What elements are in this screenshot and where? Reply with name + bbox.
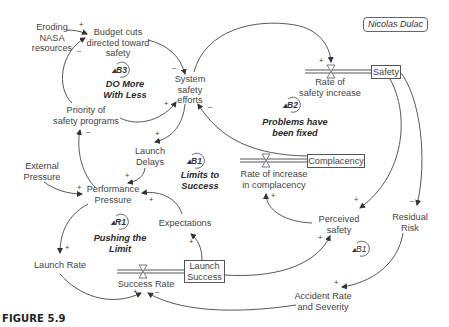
- var-expectations: Expectations: [159, 218, 212, 229]
- polarity-residual-accident: +: [334, 279, 338, 287]
- polarity-launchsuccess-expect: +: [189, 238, 193, 246]
- polarity-budget-sse: –: [172, 64, 176, 72]
- stock-safety: Safety: [371, 65, 401, 79]
- loop-name-b1: Limits to Success: [181, 170, 219, 191]
- var-launch-rate: Launch Rate: [34, 260, 86, 271]
- polarity-launchsuccess-perceived: +: [318, 234, 322, 242]
- link-perf-to-priority: [79, 130, 96, 188]
- valve-icon-complacency: [262, 154, 270, 167]
- polarity-safety-perceived: +: [354, 196, 358, 204]
- polarity-complacency-sse: –: [208, 103, 212, 111]
- link-residual-to-accident: [342, 233, 403, 287]
- link-launchsuccess-to-perceived: [225, 236, 330, 276]
- var-success-rate: Success Rate: [118, 279, 175, 290]
- var-rate-complacency: Rate of increase in complacency: [241, 169, 308, 190]
- var-system-safety-efforts: System safety efforts: [175, 74, 206, 106]
- var-perceived-safety: Perceived safety: [319, 214, 360, 235]
- link-accident-to-success: [148, 293, 296, 310]
- polarity-expect-perf: +: [149, 196, 153, 204]
- polarity-launchrate-success: +: [133, 288, 137, 296]
- polarity-accident-success: –: [155, 288, 159, 296]
- var-accident-rate: Accident Rate and Severity: [294, 291, 351, 312]
- polarity-external-perf: +: [77, 184, 81, 192]
- polarity-eroding-budget: +: [79, 21, 83, 29]
- flow-pipe-safety: [305, 70, 371, 73]
- link-budget-to-sse: [148, 40, 185, 74]
- var-launch-delays: Launch Delays: [135, 146, 165, 167]
- polarity-priority-sse: +: [164, 100, 168, 108]
- link-safety-to-residual: [400, 72, 422, 205]
- loop-id-b1: ▴B1: [187, 156, 202, 166]
- figure-caption: FIGURE 5.9: [2, 313, 66, 324]
- flow-pipe-complacency: [240, 159, 307, 162]
- var-performance-pressure: Performance Pressure: [87, 184, 140, 205]
- polarity-delays-perf: +: [125, 172, 129, 180]
- stock-launch-success: Launch Success: [184, 260, 225, 283]
- var-priority-safety: Priority of safety programs: [53, 105, 119, 126]
- loop-name-b2: Problems have been fixed: [262, 117, 327, 138]
- author-tag: Nicolas Dulac: [363, 17, 428, 32]
- polarity-priority-budget: –: [77, 47, 81, 55]
- link-delays-to-perf: [128, 168, 145, 183]
- link-sse-to-rate-safety: [194, 23, 331, 72]
- loop-id-r1: ▴R1: [111, 217, 126, 227]
- link-safety-to-perceived: [360, 79, 401, 208]
- var-external-pressure: External Pressure: [24, 161, 61, 182]
- polarity-perceived-complacency: +: [271, 192, 275, 200]
- stock-complacency: Complacency: [307, 154, 365, 168]
- loop-name-b3: DO More With Less: [103, 79, 146, 100]
- var-budget-cuts: Budget cuts directed toward safety: [87, 27, 150, 59]
- polarity-perf-priority: –: [86, 128, 90, 136]
- valve-icon-success: [139, 265, 147, 278]
- var-eroding-nasa: Eroding NASA resources: [32, 22, 72, 54]
- polarity-safety-residual: –: [410, 197, 414, 205]
- var-residual-risk: Residual Risk: [392, 212, 428, 233]
- var-rate-safety-increase: Rate of safety increase: [299, 77, 361, 98]
- loop-id-b3: ▴B3: [112, 65, 127, 75]
- polarity-sse-rate-safety: +: [319, 57, 323, 65]
- loop-id-b1-right: ▴B1: [352, 244, 366, 254]
- link-expect-to-perf: [142, 192, 182, 214]
- flow-pipe-launch-success: [117, 270, 184, 273]
- polarity-sse-delays: +: [155, 130, 159, 138]
- link-sse-to-delays: [155, 104, 185, 142]
- polarity-perf-launchrate: +: [65, 244, 69, 252]
- loop-name-r1: Pushing the Limit: [94, 233, 147, 254]
- loop-id-b2: ▴B2: [283, 100, 298, 110]
